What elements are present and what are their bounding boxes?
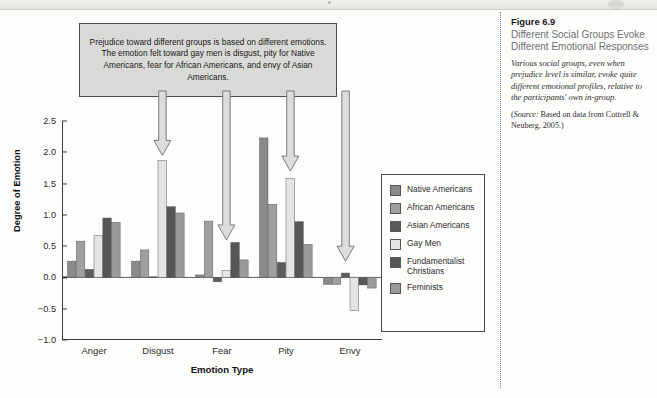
y-tick-label: −0.5 bbox=[38, 304, 56, 314]
bar bbox=[85, 269, 93, 277]
legend-label: Feminists bbox=[407, 282, 443, 292]
chart-bars bbox=[62, 121, 382, 340]
chart-plot-area: −1.0−0.50.00.51.01.52.02.5 AngerDisgustF… bbox=[62, 121, 382, 340]
legend-item: Feminists bbox=[390, 282, 484, 294]
bar bbox=[350, 277, 358, 310]
bar bbox=[277, 262, 285, 277]
bar bbox=[332, 277, 340, 284]
caption-figure-number: Figure 6.9 bbox=[511, 16, 649, 28]
caption-source: (Source: Based on data from Cottrell & N… bbox=[511, 110, 649, 131]
x-category-label: Pity bbox=[278, 345, 294, 356]
bar bbox=[368, 277, 376, 288]
bar bbox=[268, 204, 276, 277]
bar bbox=[341, 273, 349, 277]
y-tick-mark bbox=[62, 120, 67, 121]
x-category-label: Disgust bbox=[142, 345, 173, 356]
bar bbox=[176, 213, 184, 277]
bar bbox=[94, 236, 102, 278]
legend-label: Fundamentalist Christians bbox=[407, 256, 484, 276]
bar bbox=[213, 277, 221, 281]
y-tick-mark bbox=[62, 246, 67, 247]
annotation-callout-text: Prejudice toward different groups is bas… bbox=[80, 37, 336, 83]
bar bbox=[149, 277, 157, 278]
bar bbox=[286, 179, 294, 278]
legend-item: Gay Men bbox=[390, 238, 484, 250]
bar bbox=[260, 138, 268, 278]
legend-swatch bbox=[390, 185, 401, 196]
y-tick-label: 0.5 bbox=[43, 241, 56, 251]
figure-area: Prejudice toward different groups is bas… bbox=[0, 9, 500, 398]
y-tick-mark bbox=[62, 214, 67, 215]
bar bbox=[240, 260, 248, 278]
x-axis-label: Emotion Type bbox=[62, 364, 382, 375]
chart-legend: Native AmericansAfrican AmericansAsian A… bbox=[381, 174, 485, 332]
y-tick-mark bbox=[62, 339, 67, 340]
y-tick-mark bbox=[62, 183, 67, 184]
y-tick-mark bbox=[62, 277, 67, 278]
bar bbox=[196, 275, 204, 278]
y-axis-label: Degree of Emotion bbox=[12, 149, 22, 232]
bar bbox=[68, 261, 76, 277]
y-tick-label: 2.0 bbox=[43, 147, 56, 157]
x-category-label: Envy bbox=[340, 345, 361, 356]
legend-item: Native Americans bbox=[390, 184, 484, 196]
y-tick-label: 0.0 bbox=[43, 272, 56, 282]
legend-label: Gay Men bbox=[407, 238, 441, 248]
bar bbox=[158, 160, 166, 277]
y-tick-label: 1.5 bbox=[43, 179, 56, 189]
y-tick-mark bbox=[62, 152, 67, 153]
caption-description: Various social groups, even when prejudi… bbox=[511, 58, 649, 104]
x-category-label: Fear bbox=[212, 345, 231, 356]
legend-swatch bbox=[390, 257, 401, 268]
caption-title: Different Social Groups Evoke Different … bbox=[511, 29, 649, 54]
x-category-label: Anger bbox=[81, 345, 106, 356]
y-tick-label: 2.5 bbox=[43, 116, 56, 126]
scan-artifact-dot bbox=[328, 1, 331, 4]
legend-label: African Americans bbox=[407, 202, 475, 212]
annotation-callout: Prejudice toward different groups is bas… bbox=[79, 23, 337, 97]
bar bbox=[76, 241, 84, 277]
bar bbox=[295, 222, 303, 278]
bar bbox=[112, 222, 120, 277]
column-divider bbox=[500, 12, 501, 388]
bar bbox=[222, 271, 230, 278]
legend-label: Native Americans bbox=[407, 184, 472, 194]
legend-label: Asian Americans bbox=[407, 220, 469, 230]
legend-item: Fundamentalist Christians bbox=[390, 256, 484, 276]
legend-swatch bbox=[390, 221, 401, 232]
y-tick-mark bbox=[62, 308, 67, 309]
legend-swatch bbox=[390, 283, 401, 294]
figure-page: Prejudice toward different groups is bas… bbox=[0, 0, 657, 398]
bar bbox=[231, 242, 239, 277]
figure-caption: Figure 6.9 Different Social Groups Evoke… bbox=[511, 16, 649, 132]
caption-source-label: Source: bbox=[514, 110, 539, 119]
legend-item: Asian Americans bbox=[390, 220, 484, 232]
legend-swatch bbox=[390, 239, 401, 250]
bar bbox=[132, 261, 140, 277]
bar bbox=[324, 277, 332, 284]
scan-artifact-blob bbox=[608, 0, 624, 9]
legend-item: African Americans bbox=[390, 202, 484, 214]
bar bbox=[359, 277, 367, 285]
legend-swatch bbox=[390, 203, 401, 214]
y-tick-label: 1.0 bbox=[43, 210, 56, 220]
y-tick-label: −1.0 bbox=[38, 335, 56, 345]
bar bbox=[304, 244, 312, 277]
bar bbox=[103, 218, 111, 277]
bar bbox=[140, 250, 148, 278]
bar bbox=[167, 207, 175, 278]
bar bbox=[204, 221, 212, 277]
